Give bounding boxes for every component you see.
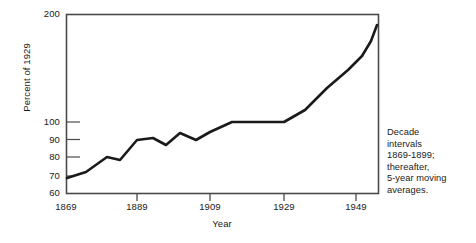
xtick-label-1909: 1909 xyxy=(180,201,240,212)
x-axis-title: Year xyxy=(66,218,378,229)
ytick-label-60: 60 xyxy=(20,187,60,198)
annotation-line-2: intervals xyxy=(387,139,475,151)
chart-figure: 200 100 90 80 70 60 1869 1889 1909 1929 … xyxy=(0,0,476,243)
plot-frame xyxy=(67,15,379,194)
data-line-percent-of-1929 xyxy=(67,25,377,178)
annotation-line-5: 5-year moving xyxy=(387,173,475,185)
annotation-line-3: 1869-1899; xyxy=(387,150,475,162)
ytick-label-80: 80 xyxy=(20,151,60,162)
annotation-line-1: Decade xyxy=(387,127,475,139)
xtick-label-1929: 1929 xyxy=(254,201,314,212)
y-axis-title: Percent of 1929 xyxy=(21,8,32,148)
xtick-label-1889: 1889 xyxy=(107,201,167,212)
ytick-label-70: 70 xyxy=(20,170,60,181)
chart-annotation: Decade intervals 1869-1899; thereafter, … xyxy=(387,127,475,197)
annotation-line-6: averages. xyxy=(387,185,475,197)
y-tick-marks xyxy=(66,122,80,176)
xtick-label-1869: 1869 xyxy=(36,201,96,212)
annotation-line-4: thereafter, xyxy=(387,162,475,174)
xtick-label-1949: 1949 xyxy=(326,201,386,212)
